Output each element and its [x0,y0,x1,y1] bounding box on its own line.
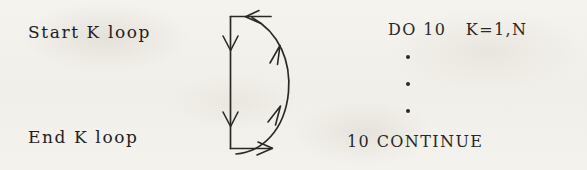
right-return-curve [236,18,289,155]
curve-lower-up-arrowhead [268,106,281,125]
loop-flow-diagram [0,0,587,170]
fortran-loop-figure: Start K loop End K loop DO 10 K=1,N 10 C… [0,0,587,170]
curve-upper-up-arrowhead [270,46,280,65]
